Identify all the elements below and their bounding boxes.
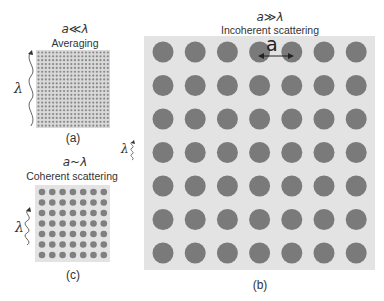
panel-c-caption: (c) xyxy=(55,268,91,282)
spacing-label: a xyxy=(266,33,278,55)
panel-a-caption: (a) xyxy=(55,131,91,145)
panel-a-lambda: λ xyxy=(14,80,23,96)
panel-b-lambda: λ xyxy=(121,142,129,156)
panel-c-condition: a~λ xyxy=(40,155,110,169)
panel-c-title: Coherent scattering xyxy=(20,170,124,182)
panel-b-dots xyxy=(144,36,375,270)
panel-b-grid xyxy=(144,36,375,270)
panel-b-caption: (b) xyxy=(240,278,280,292)
panel-a-dots xyxy=(36,50,110,128)
panel-c-dots xyxy=(35,185,110,262)
panel-b-condition: a≫λ xyxy=(220,10,320,24)
panel-a-condition: a≪λ xyxy=(40,22,110,36)
panel-a-title: Averaging xyxy=(40,37,110,49)
panel-a-grid xyxy=(36,50,110,128)
panel-c-grid xyxy=(35,185,110,262)
panel-c-lambda: λ xyxy=(15,219,24,235)
